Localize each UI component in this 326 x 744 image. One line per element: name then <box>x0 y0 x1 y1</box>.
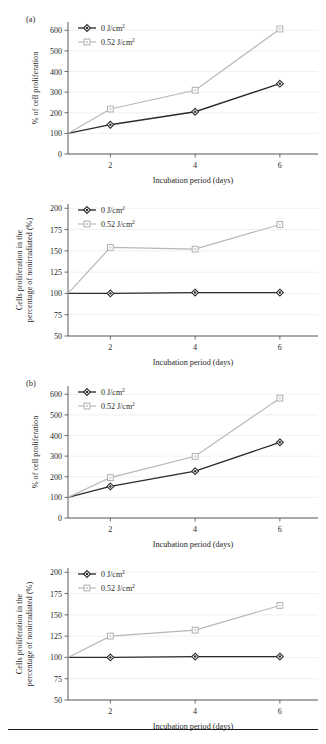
svg-text:% of cell proliferation: % of cell proliferation <box>31 416 40 489</box>
svg-text:200: 200 <box>50 109 62 118</box>
svg-text:600: 600 <box>50 390 62 399</box>
svg-text:4: 4 <box>193 525 197 534</box>
svg-text:0 J/cm2: 0 J/cm2 <box>101 387 125 397</box>
chart-b-proliferation-svg: 0100200300400500600246Incubation period … <box>0 372 326 554</box>
svg-text:Cells proliferation in the: Cells proliferation in the <box>15 594 24 675</box>
svg-text:0: 0 <box>58 150 62 159</box>
svg-text:Incubation period (days): Incubation period (days) <box>153 540 234 549</box>
figure-page: (a) (b) 0100200300400500600246Incubation… <box>0 0 326 744</box>
svg-text:100: 100 <box>50 653 62 662</box>
svg-text:75: 75 <box>54 311 62 320</box>
svg-text:Incubation period (days): Incubation period (days) <box>153 176 234 185</box>
svg-text:300: 300 <box>50 88 62 97</box>
svg-text:2: 2 <box>108 525 112 534</box>
chart-a-proliferation: 0100200300400500600246Incubation period … <box>0 8 326 190</box>
svg-text:500: 500 <box>50 411 62 420</box>
svg-text:300: 300 <box>50 452 62 461</box>
svg-text:0.52 J/cm2: 0.52 J/cm2 <box>101 583 135 593</box>
svg-text:125: 125 <box>50 632 62 641</box>
svg-text:400: 400 <box>50 432 62 441</box>
svg-text:Incubation period (days): Incubation period (days) <box>153 358 234 367</box>
svg-text:0.52 J/cm2: 0.52 J/cm2 <box>101 219 135 229</box>
chart-b-normalized: 5075100125150175200246Incubation period … <box>0 554 326 736</box>
svg-text:0: 0 <box>58 514 62 523</box>
svg-text:100: 100 <box>50 289 62 298</box>
svg-text:2: 2 <box>108 707 112 716</box>
svg-text:6: 6 <box>278 343 282 352</box>
svg-text:50: 50 <box>54 332 62 341</box>
svg-text:150: 150 <box>50 247 62 256</box>
svg-text:100: 100 <box>50 493 62 502</box>
svg-text:% of cell proliferation: % of cell proliferation <box>31 52 40 125</box>
svg-text:6: 6 <box>278 707 282 716</box>
svg-text:percentage of nonirradiated (%: percentage of nonirradiated (%) <box>25 218 34 323</box>
svg-text:75: 75 <box>54 675 62 684</box>
svg-text:200: 200 <box>50 568 62 577</box>
chart-a-proliferation-svg: 0100200300400500600246Incubation period … <box>0 8 326 190</box>
svg-text:0.52 J/cm2: 0.52 J/cm2 <box>101 401 135 411</box>
svg-text:0 J/cm2: 0 J/cm2 <box>101 205 125 215</box>
svg-text:600: 600 <box>50 26 62 35</box>
svg-text:2: 2 <box>108 343 112 352</box>
chart-a-normalized: 5075100125150175200246Incubation period … <box>0 190 326 372</box>
svg-text:200: 200 <box>50 204 62 213</box>
chart-b-proliferation: 0100200300400500600246Incubation period … <box>0 372 326 554</box>
chart-b-normalized-svg: 5075100125150175200246Incubation period … <box>0 554 326 736</box>
svg-text:200: 200 <box>50 473 62 482</box>
svg-text:0 J/cm2: 0 J/cm2 <box>101 569 125 579</box>
svg-text:percentage of nonirradiated (%: percentage of nonirradiated (%) <box>25 582 34 687</box>
svg-text:175: 175 <box>50 590 62 599</box>
svg-text:100: 100 <box>50 129 62 138</box>
svg-text:0 J/cm2: 0 J/cm2 <box>101 23 125 33</box>
svg-text:6: 6 <box>278 525 282 534</box>
svg-text:175: 175 <box>50 226 62 235</box>
svg-text:500: 500 <box>50 47 62 56</box>
svg-text:125: 125 <box>50 268 62 277</box>
svg-text:400: 400 <box>50 68 62 77</box>
svg-text:4: 4 <box>193 343 197 352</box>
svg-text:6: 6 <box>278 161 282 170</box>
svg-text:2: 2 <box>108 161 112 170</box>
svg-text:50: 50 <box>54 696 62 705</box>
svg-text:Cells proliferation in the: Cells proliferation in the <box>15 230 24 311</box>
svg-text:4: 4 <box>193 161 197 170</box>
svg-text:150: 150 <box>50 611 62 620</box>
svg-text:4: 4 <box>193 707 197 716</box>
svg-text:0.52 J/cm2: 0.52 J/cm2 <box>101 37 135 47</box>
chart-a-normalized-svg: 5075100125150175200246Incubation period … <box>0 190 326 372</box>
figure-bottom-rule <box>8 729 318 730</box>
